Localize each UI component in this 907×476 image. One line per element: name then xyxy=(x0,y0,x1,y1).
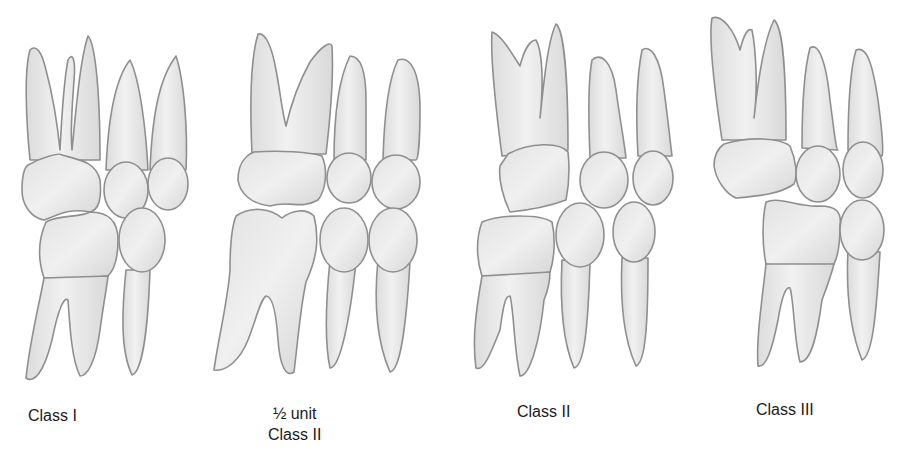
lower-second-premolar-crown xyxy=(556,203,604,267)
lower-first-premolar-crown xyxy=(613,202,655,262)
upper-first-premolar-crown xyxy=(843,142,883,198)
lower-second-premolar-root xyxy=(561,260,590,368)
upper-first-premolar-crown xyxy=(148,158,188,210)
lower-first-molar-root xyxy=(758,264,834,366)
upper-second-premolar-crown xyxy=(327,153,371,203)
upper-first-premolar-crown xyxy=(372,155,420,209)
upper-second-premolar-crown xyxy=(580,152,628,208)
lower-second-premolar-root xyxy=(123,270,150,375)
upper-first-molar-root xyxy=(492,24,568,156)
label-half-unit-class-2: ½ unit Class II xyxy=(268,403,321,445)
panel-half-unit-class-2 xyxy=(214,34,420,374)
label-class-3: Class III xyxy=(756,399,814,420)
upper-first-molar-crown xyxy=(238,151,325,206)
label-class-1: Class I xyxy=(28,405,77,426)
lower-first-molar-root xyxy=(26,276,108,379)
lower-first-premolar-crown xyxy=(840,200,884,260)
lower-second-premolar-crown xyxy=(119,208,165,272)
label-class-2: Class II xyxy=(517,401,570,422)
upper-first-premolar-root xyxy=(150,56,187,170)
upper-first-premolar-root xyxy=(637,49,672,156)
upper-first-molar-root xyxy=(26,36,100,160)
upper-first-premolar-crown xyxy=(633,151,673,205)
lower-second-premolar-root xyxy=(326,260,356,368)
upper-second-premolar-root xyxy=(106,60,148,170)
lower-first-premolar-crown xyxy=(369,208,417,272)
label-class-2-line: Class II xyxy=(517,401,570,422)
panel-class-3 xyxy=(711,17,884,366)
upper-first-molar-crown xyxy=(500,145,569,212)
lower-second-premolar-crown xyxy=(320,208,368,272)
lower-first-premolar-root xyxy=(622,258,648,366)
upper-first-molar-crown xyxy=(714,139,796,198)
upper-first-premolar-root xyxy=(848,49,883,156)
panel-class-2 xyxy=(474,24,673,376)
upper-first-molar-crown xyxy=(22,154,101,220)
upper-second-premolar-root xyxy=(802,47,838,150)
panel-class-1 xyxy=(22,36,188,379)
molar-relationship-figure: Class I ½ unit Class II Class II Class I… xyxy=(0,0,907,476)
upper-first-molar-root xyxy=(251,34,333,154)
lower-first-molar-crown xyxy=(40,212,118,279)
lower-first-molar-root xyxy=(474,272,550,376)
lower-first-premolar-root xyxy=(376,260,410,372)
label-half-unit-line1: ½ unit xyxy=(268,403,321,424)
upper-second-premolar-root xyxy=(589,57,626,158)
lower-first-molar-crown xyxy=(478,216,555,276)
lower-first-molar-root-and-crown xyxy=(214,209,317,373)
lower-first-molar-crown xyxy=(763,200,840,267)
upper-first-molar-root xyxy=(711,17,786,140)
label-class-3-line: Class III xyxy=(756,399,814,420)
upper-second-premolar-root xyxy=(334,56,366,160)
lower-first-premolar-root xyxy=(848,250,880,360)
upper-second-premolar-crown xyxy=(796,146,840,202)
label-half-unit-line2: Class II xyxy=(268,424,321,445)
label-class-1-line: Class I xyxy=(28,405,77,426)
upper-first-premolar-root xyxy=(383,59,420,160)
